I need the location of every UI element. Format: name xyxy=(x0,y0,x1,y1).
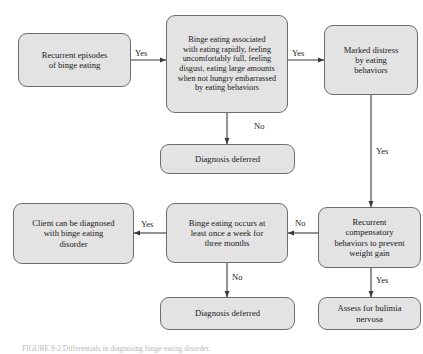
edge-label-distress-to-compensatory: Yes xyxy=(376,147,388,156)
node-recurrent-episodes: Recurrent episodes of binge eating xyxy=(18,33,131,87)
edge-label-criteria-to-deferred: No xyxy=(254,122,264,131)
node-diagnosis-deferred-top-label: Diagnosis deferred xyxy=(195,154,260,164)
node-diagnosis-deferred-top: Diagnosis deferred xyxy=(160,144,295,174)
edge-label-episodes-to-criteria: Yes xyxy=(135,49,147,58)
flowchart-figure: Recurrent episodes of binge eating Binge… xyxy=(0,0,423,354)
node-diagnosis-deferred-bottom-label: Diagnosis deferred xyxy=(195,308,260,318)
node-client-diagnosed: Client can be diagnosed with binge eatin… xyxy=(13,203,134,264)
node-binge-criteria-label: Binge eating associated with eating rapi… xyxy=(178,35,276,93)
edge-label-frequency-to-deferred: No xyxy=(232,273,242,282)
edge-label-frequency-to-client: Yes xyxy=(141,220,153,229)
edge-label-compensatory-to-frequency: No xyxy=(295,219,305,228)
node-binge-criteria: Binge eating associated with eating rapi… xyxy=(166,15,288,113)
node-compensatory-behaviors: Recurrent compensatory behaviors to prev… xyxy=(318,207,421,268)
node-assess-bulimia-label: Assess for bulimia nervosa xyxy=(338,303,402,323)
node-marked-distress-label: Marked distress by eating behaviors xyxy=(344,45,399,75)
edge-label-compensatory-to-bulimia: Yes xyxy=(376,276,388,285)
node-marked-distress: Marked distress by eating behaviors xyxy=(324,25,418,95)
node-frequency-criteria-label: Binge eating occurs at least once a week… xyxy=(189,218,266,248)
node-frequency-criteria: Binge eating occurs at least once a week… xyxy=(166,203,288,263)
figure-caption: FIGURE 8-2 Differentials in diagnosing b… xyxy=(22,344,412,353)
node-recurrent-episodes-label: Recurrent episodes of binge eating xyxy=(42,50,108,70)
node-client-diagnosed-label: Client can be diagnosed with binge eatin… xyxy=(32,218,114,248)
node-diagnosis-deferred-bottom: Diagnosis deferred xyxy=(160,297,295,330)
edge-label-criteria-to-distress: Yes xyxy=(292,49,304,58)
node-assess-bulimia: Assess for bulimia nervosa xyxy=(318,297,421,330)
node-compensatory-behaviors-label: Recurrent compensatory behaviors to prev… xyxy=(334,217,404,258)
